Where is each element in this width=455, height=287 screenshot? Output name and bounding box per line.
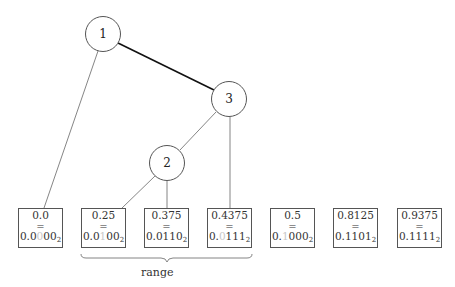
node-label: 1 <box>99 27 107 41</box>
leaf-decimal: 0.25 <box>92 210 115 222</box>
leaf-decimal: 0.8125 <box>337 210 374 222</box>
node-label: 2 <box>163 156 171 170</box>
leaf-decimal: 0.5 <box>284 210 301 222</box>
leaf-decimal: 0.0 <box>32 210 49 222</box>
leaf-box: 0.375 = 0.01102 <box>144 208 189 248</box>
leaf-box: 0.0 = 0.00002 <box>18 208 63 248</box>
leaf-binary: 0.01102 <box>146 231 187 247</box>
leaf-box: 0.9375 = 0.11112 <box>397 208 442 248</box>
leaf-binary: 0.11112 <box>399 231 440 247</box>
leaf-box: 0.4375 = 0.01112 <box>207 208 252 248</box>
leaf-decimal: 0.375 <box>151 210 181 222</box>
leaf-box: 0.5 = 0.10002 <box>270 208 315 248</box>
leaf-decimal: 0.9375 <box>401 210 438 222</box>
leaf-binary: 0.11012 <box>335 231 376 247</box>
tree-node-1: 1 <box>85 16 121 52</box>
leaf-binary: 0.01112 <box>209 231 250 247</box>
leaf-box: 0.8125 = 0.11012 <box>333 208 378 248</box>
node-label: 3 <box>225 92 233 106</box>
tree-node-2: 2 <box>149 145 185 181</box>
leaf-decimal: 0.4375 <box>211 210 248 222</box>
leaf-box: 0.25 = 0.01002 <box>81 208 126 248</box>
leaf-binary: 0.00002 <box>20 231 61 247</box>
tree-node-3: 3 <box>211 81 247 117</box>
range-brace-label: range <box>141 266 173 279</box>
leaf-binary: 0.01002 <box>83 231 124 247</box>
leaf-binary: 0.10002 <box>272 231 313 247</box>
